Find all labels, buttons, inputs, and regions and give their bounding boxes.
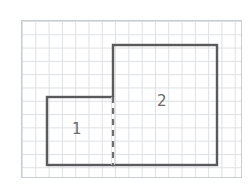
region-2-label: 2 bbox=[157, 94, 167, 109]
figure-root: 1 2 bbox=[0, 0, 251, 193]
region-1-label: 1 bbox=[72, 122, 82, 137]
shape-layer bbox=[0, 0, 251, 193]
